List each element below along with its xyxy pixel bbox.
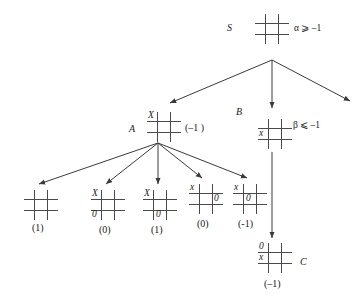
leaf-value: (1) xyxy=(32,223,44,233)
board-mark: X xyxy=(92,189,98,199)
grid-vline-left xyxy=(153,190,154,220)
grid-hline-bottom xyxy=(189,204,223,205)
grid-vline-left xyxy=(265,14,266,44)
grid-vline-right xyxy=(256,184,257,214)
edge-a-to-leaf-4 xyxy=(158,143,202,178)
grid-vline-left xyxy=(243,184,244,214)
grid-hline-bottom xyxy=(255,34,289,35)
board-mark: X xyxy=(148,111,154,121)
leaf-value: (0) xyxy=(99,225,111,235)
node-root-label: S xyxy=(227,23,232,33)
board-c: 0 x xyxy=(258,243,292,273)
board-mark: 0 xyxy=(246,194,251,204)
board-mark: 0 xyxy=(214,194,219,204)
grid-vline-right xyxy=(281,119,282,149)
edge-a-to-leaf-5 xyxy=(158,143,247,178)
board-leaf-3: X 0 xyxy=(143,190,177,220)
grid-vline-right xyxy=(166,190,167,220)
leaf-value: (0) xyxy=(197,219,209,229)
edge-a-to-leaf-2 xyxy=(106,143,158,184)
leaf-node-3[interactable]: X 0 (1) xyxy=(143,190,177,220)
board-leaf-2: X 0 xyxy=(91,190,125,220)
grid-hline-bottom xyxy=(233,204,267,205)
leaf-node-5[interactable]: x 0 (-1) xyxy=(233,184,267,214)
board-mark: X xyxy=(144,189,150,199)
node-c[interactable]: 0 x C (–1) xyxy=(258,243,292,273)
grid-vline-left xyxy=(199,184,200,214)
node-c-value: (–1) xyxy=(264,279,281,289)
board-mark: x xyxy=(259,129,263,139)
board-mark: 0 xyxy=(156,210,161,220)
grid-hline-top xyxy=(147,121,181,122)
grid-hline-top xyxy=(24,199,58,200)
tree-edges xyxy=(0,0,363,298)
node-b-beta-bound: β ⩽ –1 xyxy=(293,121,320,131)
board-root xyxy=(255,14,289,44)
grid-vline-right xyxy=(278,14,279,44)
leaf-value: (1) xyxy=(151,225,163,235)
grid-vline-left xyxy=(101,190,102,220)
board-mark: x xyxy=(234,183,238,193)
edge-root-to-a xyxy=(170,60,272,103)
edge-a-to-leaf-1 xyxy=(39,143,158,184)
grid-vline-left xyxy=(157,112,158,142)
board-a: X xyxy=(147,112,181,142)
grid-vline-left xyxy=(268,243,269,273)
leaf-node-1[interactable]: (1) xyxy=(24,190,58,220)
grid-vline-left xyxy=(34,190,35,220)
grid-vline-right xyxy=(170,112,171,142)
board-mark: 0 xyxy=(92,210,97,220)
grid-hline-top xyxy=(143,199,177,200)
diagram-canvas: S α ⩾ –1 X A (–1 ) x B β ⩽ –1 xyxy=(0,0,363,298)
grid-vline-left xyxy=(268,119,269,149)
board-leaf-1 xyxy=(24,190,58,220)
board-leaf-4: x 0 xyxy=(189,184,223,214)
grid-hline-bottom xyxy=(258,263,292,264)
grid-hline-bottom xyxy=(147,132,181,133)
grid-vline-right xyxy=(212,184,213,214)
board-mark: 0 xyxy=(259,242,264,252)
node-root[interactable]: S α ⩾ –1 xyxy=(255,14,289,44)
node-c-label: C xyxy=(300,257,307,267)
grid-vline-right xyxy=(47,190,48,220)
node-a-value: (–1 ) xyxy=(185,123,204,133)
grid-hline-top xyxy=(91,199,125,200)
edge-root-to-unexplored xyxy=(272,60,350,101)
leaf-node-4[interactable]: x 0 (0) xyxy=(189,184,223,214)
leaf-node-2[interactable]: X 0 (0) xyxy=(91,190,125,220)
board-b: x xyxy=(258,119,292,149)
board-leaf-5: x 0 xyxy=(233,184,267,214)
board-mark: x xyxy=(259,253,263,263)
grid-hline-bottom xyxy=(258,139,292,140)
grid-vline-right xyxy=(281,243,282,273)
node-b[interactable]: x B β ⩽ –1 xyxy=(258,119,292,149)
node-a-label: A xyxy=(129,124,135,134)
grid-vline-right xyxy=(114,190,115,220)
board-mark: x xyxy=(190,183,194,193)
leaf-value: (-1) xyxy=(238,219,253,229)
node-root-alpha-bound: α ⩾ –1 xyxy=(294,24,321,34)
node-b-label: B xyxy=(236,107,242,117)
grid-hline-bottom xyxy=(24,210,58,211)
grid-hline-top xyxy=(255,23,289,24)
node-a[interactable]: X A (–1 ) xyxy=(147,112,181,142)
